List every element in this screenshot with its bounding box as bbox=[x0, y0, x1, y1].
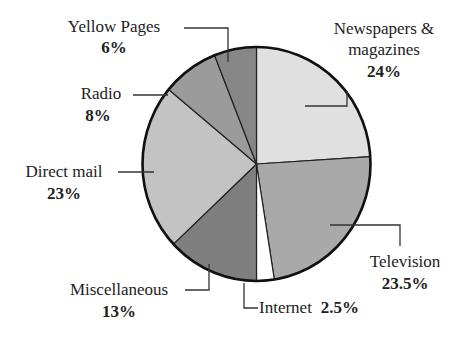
label-television: Television 23.5% bbox=[370, 252, 441, 293]
label-miscellaneous: Miscellaneous 13% bbox=[70, 280, 168, 321]
leader-internet bbox=[244, 283, 258, 308]
label-newspapers-line1: Newspapers & bbox=[334, 19, 435, 38]
label-yellow-pages-name: Yellow Pages bbox=[68, 17, 160, 36]
label-internet-text: Internet 2.5% bbox=[259, 298, 359, 317]
label-yellow-pages-pct: 6% bbox=[101, 38, 127, 57]
label-newspapers-pct: 24% bbox=[367, 62, 401, 81]
label-radio-pct: 8% bbox=[85, 106, 111, 125]
label-television-pct: 23.5% bbox=[382, 274, 429, 293]
label-radio-name: Radio bbox=[81, 84, 122, 103]
label-direct-mail-pct: 23% bbox=[47, 184, 81, 203]
label-internet: Internet 2.5% bbox=[259, 298, 359, 317]
label-direct-mail: Direct mail 23% bbox=[26, 162, 103, 203]
label-newspapers: Newspapers & magazines 24% bbox=[334, 19, 435, 81]
label-television-name: Television bbox=[370, 252, 441, 271]
label-direct-mail-name: Direct mail bbox=[26, 162, 103, 181]
label-newspapers-line2: magazines bbox=[348, 40, 420, 59]
label-yellow-pages: Yellow Pages 6% bbox=[68, 17, 160, 57]
pie-slice-television bbox=[257, 157, 371, 280]
label-internet-pct: 2.5% bbox=[321, 298, 359, 317]
label-radio: Radio 8% bbox=[81, 84, 122, 125]
label-internet-name: Internet bbox=[259, 298, 312, 317]
label-miscellaneous-pct: 13% bbox=[102, 302, 136, 321]
pie-chart: Yellow Pages 6% Radio 8% Direct mail 23%… bbox=[0, 0, 467, 338]
label-miscellaneous-name: Miscellaneous bbox=[70, 280, 168, 299]
